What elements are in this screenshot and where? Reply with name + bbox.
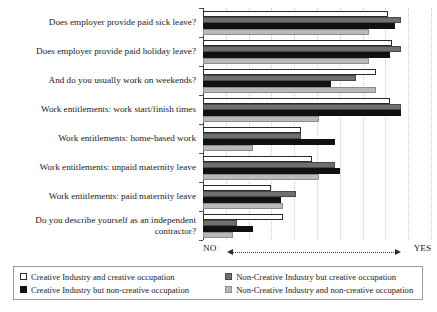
bar [203, 174, 319, 180]
bar [203, 87, 376, 93]
legend-item: Creative Industry and creative occupatio… [20, 272, 225, 282]
category-label: Work entitlements: work start/finish tim… [4, 104, 196, 115]
bar [203, 116, 319, 122]
axis-direction-annotation: NO YES [203, 241, 431, 257]
legend-swatch-icon [225, 286, 232, 293]
horizontal-bar-chart: Does employer provide paid sick leave?Do… [0, 0, 437, 312]
axis-label-no: NO [203, 243, 216, 253]
axis-tick [199, 8, 203, 9]
category-label: Does employer provide paid holiday leave… [4, 46, 196, 57]
arrow-head-right-icon [395, 249, 401, 255]
axis-tick [199, 66, 203, 67]
legend-swatch-icon [20, 273, 27, 280]
legend-label: Non-Creative Industry and non-creative o… [236, 285, 413, 295]
legend-item: Creative Industry but non-creative occup… [20, 285, 225, 295]
axis-label-yes: YES [414, 243, 431, 253]
axis-tick [199, 182, 203, 183]
category-axis-labels: Does employer provide paid sick leave?Do… [4, 8, 200, 240]
category-label: Work entitlements: unpaid maternity leav… [4, 162, 196, 173]
bar [203, 232, 233, 238]
axis-double-arrow-icon [227, 249, 401, 256]
axis-tick [199, 153, 203, 154]
category-label: Work entitlements: paid maternity leave [4, 191, 196, 202]
legend-swatch-icon [225, 273, 232, 280]
axis-tick [199, 95, 203, 96]
gridline [408, 8, 409, 240]
category-label: Do you describe yourself as an independe… [4, 215, 196, 237]
legend-row: Creative Industry and creative occupatio… [20, 270, 416, 283]
legend-item: Non-Creative Industry but creative occup… [225, 272, 416, 282]
axis-tick [199, 37, 203, 38]
category-label: Does employer provide paid sick leave? [4, 17, 196, 28]
legend-item: Non-Creative Industry and non-creative o… [225, 285, 416, 295]
bar [203, 145, 253, 151]
bar [203, 29, 369, 35]
category-label: Work entitlements: home-based work [4, 133, 196, 144]
category-label: And do you usually work on weekends? [4, 75, 196, 86]
legend-swatch-icon [20, 286, 27, 293]
gridline [431, 8, 432, 240]
legend-label: Creative Industry and creative occupatio… [31, 272, 175, 282]
plot-area [203, 8, 431, 240]
arrow-dotted-line [232, 252, 396, 253]
bar [203, 203, 283, 209]
legend-row: Creative Industry but non-creative occup… [20, 283, 416, 296]
axis-tick [199, 124, 203, 125]
axis-tick [199, 211, 203, 212]
bar [203, 58, 369, 64]
chart-legend: Creative Industry and creative occupatio… [13, 266, 423, 300]
legend-label: Non-Creative Industry but creative occup… [236, 272, 396, 282]
legend-label: Creative Industry but non-creative occup… [31, 285, 189, 295]
